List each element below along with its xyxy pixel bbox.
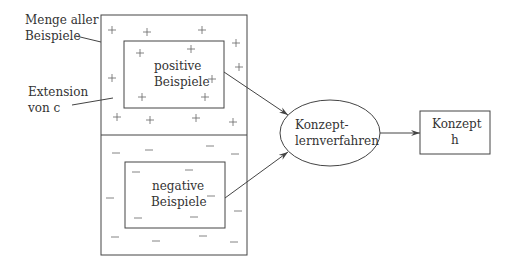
extension-label-1: Extension [28,85,88,99]
plus-icon [113,113,121,121]
plus-icon [198,26,206,34]
positive-to-learner-arrow [224,72,288,115]
plus-icon [108,26,116,34]
plus-icon [192,114,200,122]
learning-algorithm-node [280,100,380,166]
plus-icon [229,118,237,126]
learner-label-1: Konzept- [295,118,349,132]
concept-learning-diagram: Menge aller Beispiele Extension von c po… [0,0,518,269]
positive-label-2: Beispiele [154,75,209,89]
plus-icon [201,93,209,101]
plus-icon [232,39,240,47]
plus-icon [187,45,195,53]
plus-icon [138,93,146,101]
plus-icon [235,63,243,71]
plus-icon [136,49,144,57]
concept-label-2: h [451,133,459,147]
negative-label-1: negative [152,179,204,193]
extension-leader [72,98,113,105]
learner-label-2: lernverfahren [295,134,379,148]
positive-label-1: positive [154,59,201,73]
all-examples-label-2: Beispiele [25,29,80,43]
concept-label-1: Konzept [432,117,482,131]
plus-icon [146,116,154,124]
all-examples-label-1: Menge aller [25,13,99,27]
negative-to-learner-arrow [225,152,288,198]
plus-icon [143,28,151,36]
plus-icon [108,74,116,82]
negative-label-2: Beispiele [151,195,206,209]
extension-label-2: von c [27,101,61,115]
